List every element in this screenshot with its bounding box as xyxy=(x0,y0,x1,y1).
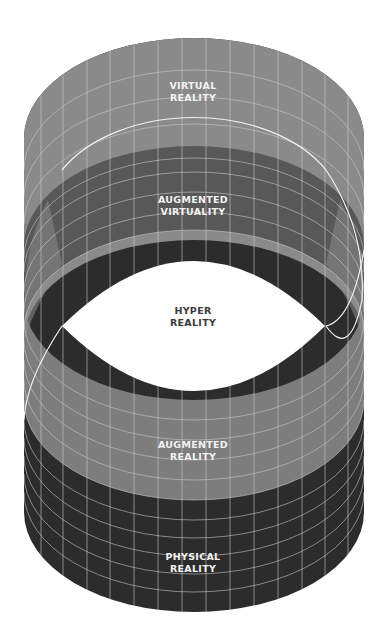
label-physical-reality: Physical Reality xyxy=(0,551,386,575)
label-line: Reality xyxy=(0,451,386,463)
label-line: Reality xyxy=(0,92,386,104)
label-line: Reality xyxy=(0,317,386,329)
label-line: Physical xyxy=(0,551,386,563)
label-line: Virtuality xyxy=(0,206,386,218)
label-augmented-reality: Augmented Reality xyxy=(0,439,386,463)
label-line: Augmented xyxy=(0,439,386,451)
label-line: Virtual xyxy=(0,80,386,92)
label-augmented-virtuality: Augmented Virtuality xyxy=(0,194,386,218)
label-line: Augmented xyxy=(0,194,386,206)
label-line: Reality xyxy=(0,563,386,575)
label-hyper-reality: Hyper Reality xyxy=(0,305,386,329)
label-virtual-reality: Virtual Reality xyxy=(0,80,386,104)
label-line: Hyper xyxy=(0,305,386,317)
